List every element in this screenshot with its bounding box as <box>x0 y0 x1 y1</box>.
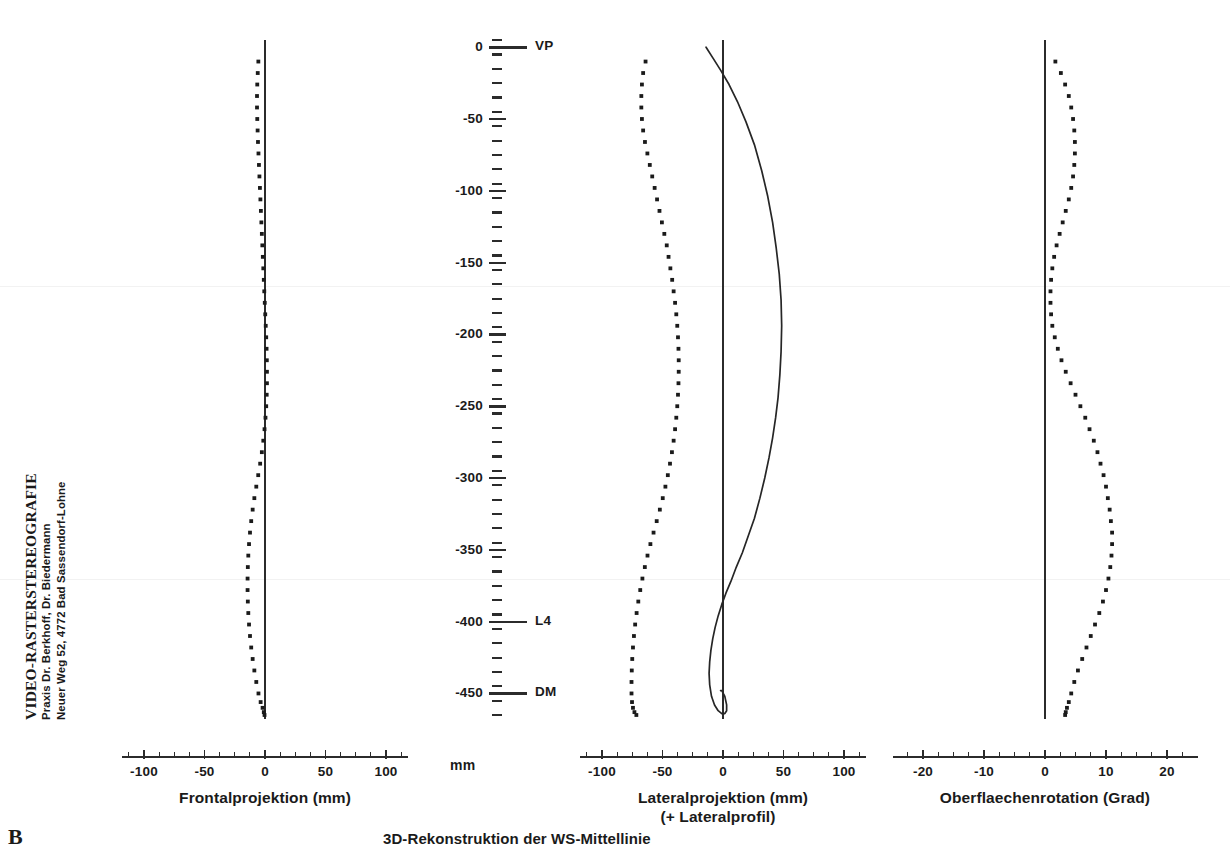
figure-root: VIDEO-RASTERSTEREOGRAFIE Praxis Dr. Berk… <box>0 0 1230 868</box>
figure-panel-label: B <box>8 824 23 850</box>
curve-rotation <box>1049 60 1114 717</box>
panel-rotation: -20-1001020Oberflaechenrotation (Grad) <box>0 0 1230 868</box>
curve-layer-rotation <box>0 0 1230 868</box>
figure-caption: 3D-Rekonstruktion der WS-Mittellinie <box>383 830 651 847</box>
